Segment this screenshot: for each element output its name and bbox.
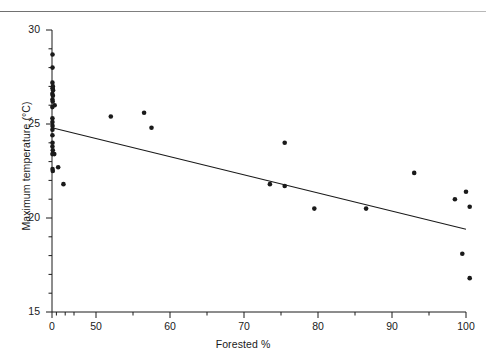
- data-point: [460, 251, 465, 256]
- data-point: [412, 171, 417, 176]
- data-point: [50, 133, 55, 138]
- x-tick-label: 100: [446, 320, 486, 332]
- data-point: [464, 189, 469, 194]
- data-point: [52, 152, 57, 157]
- data-point: [467, 204, 472, 209]
- data-point: [312, 206, 317, 211]
- data-point: [50, 52, 55, 57]
- scatter-plot: Maximum temperature (°C) Forested % 1520…: [0, 0, 486, 363]
- y-tick-label: 20: [12, 211, 40, 223]
- trend-line: [52, 128, 466, 230]
- data-point: [282, 184, 287, 189]
- data-point: [50, 65, 55, 70]
- data-point: [268, 182, 273, 187]
- data-point: [142, 110, 147, 115]
- x-tick-label: 80: [298, 320, 338, 332]
- x-tick-label: 0: [32, 320, 72, 332]
- x-tick-label: 60: [150, 320, 190, 332]
- data-point: [109, 114, 114, 119]
- y-tick-label: 30: [12, 23, 40, 35]
- data-point: [282, 141, 287, 146]
- x-tick-label: 50: [76, 320, 116, 332]
- data-point: [52, 103, 57, 108]
- y-tick-label: 15: [12, 305, 40, 317]
- data-point: [453, 197, 458, 202]
- data-point: [56, 165, 61, 170]
- x-tick-label: 70: [224, 320, 264, 332]
- y-tick-label: 25: [12, 117, 40, 129]
- data-point: [149, 125, 154, 130]
- data-point: [364, 206, 369, 211]
- figure-root: Maximum temperature (°C) Forested % 1520…: [0, 0, 486, 363]
- data-point: [467, 276, 472, 281]
- data-point: [61, 182, 66, 187]
- data-point: [50, 127, 55, 132]
- x-tick-label: 90: [372, 320, 412, 332]
- plot-canvas: [0, 0, 486, 363]
- data-point: [50, 169, 55, 174]
